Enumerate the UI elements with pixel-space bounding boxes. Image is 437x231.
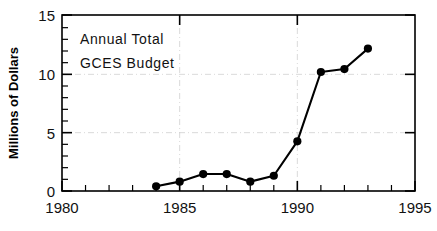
- x-axis-minor-ticks: [86, 185, 392, 191]
- x-axis-major-ticks: [62, 181, 415, 191]
- right-axis-ticks: [405, 15, 415, 191]
- data-point: [364, 45, 372, 53]
- data-markers: [152, 45, 372, 191]
- x-tick-label-1995: 1995: [398, 199, 431, 216]
- data-point: [223, 170, 231, 178]
- data-series-line: [156, 49, 368, 187]
- annotation-line-2: GCES Budget: [80, 55, 175, 71]
- x-tick-label-1990: 1990: [281, 199, 314, 216]
- chart-figure: 15 10 5 0 1980 1985 1990 1995 Millions o…: [0, 0, 437, 231]
- top-axis-ticks: [180, 15, 298, 25]
- x-tick-label-1980: 1980: [45, 199, 78, 216]
- data-point: [340, 65, 348, 73]
- data-point: [317, 68, 325, 76]
- y-tick-label-10: 10: [38, 66, 55, 83]
- data-point: [152, 182, 160, 190]
- y-axis-label: Millions of Dollars: [6, 47, 21, 159]
- line-chart: 15 10 5 0 1980 1985 1990 1995 Millions o…: [0, 0, 437, 231]
- y-tick-label-0: 0: [47, 183, 55, 200]
- data-point: [176, 178, 184, 186]
- x-tick-label-1985: 1985: [163, 199, 196, 216]
- annotation-line-1: Annual Total: [80, 31, 164, 47]
- data-point: [293, 137, 301, 145]
- y-axis-minor-ticks: [62, 28, 68, 180]
- data-point: [270, 172, 278, 180]
- data-point: [199, 170, 207, 178]
- y-tick-label-5: 5: [47, 125, 55, 142]
- y-tick-label-15: 15: [38, 7, 55, 24]
- y-axis-major-ticks: [62, 15, 72, 191]
- data-point: [246, 178, 254, 186]
